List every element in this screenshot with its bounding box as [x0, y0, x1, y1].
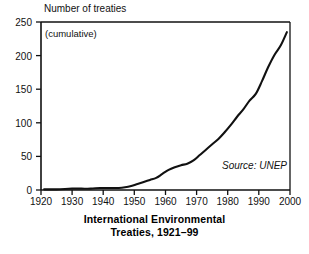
x-tick-label-1990: 1990	[244, 196, 274, 207]
y-tick-label-0: 0	[6, 185, 32, 196]
chart-caption: International Environmental Treaties, 19…	[0, 213, 309, 239]
y-tick-label-50: 50	[6, 151, 32, 162]
x-tick-label-1970: 1970	[182, 196, 212, 207]
source-note: Source: UNEP	[222, 160, 287, 171]
y-tick-label-250: 250	[6, 17, 32, 28]
x-tick-label-2000: 2000	[275, 196, 305, 207]
cumulative-note: (cumulative)	[45, 28, 97, 39]
x-tick-label-1930: 1930	[57, 196, 87, 207]
caption-line-2: Treaties, 1921–99	[0, 226, 309, 239]
y-tick-label-150: 150	[6, 84, 32, 95]
x-tick-label-1950: 1950	[119, 196, 149, 207]
caption-line-1: International Environmental	[0, 213, 309, 226]
y-tick-label-200: 200	[6, 51, 32, 62]
x-tick-label-1940: 1940	[88, 196, 118, 207]
chart-figure: Number of treaties (cumulative) Source: …	[0, 0, 309, 254]
x-tick-label-1920: 1920	[26, 196, 56, 207]
x-tick-label-1980: 1980	[213, 196, 243, 207]
x-tick-label-1960: 1960	[151, 196, 181, 207]
y-axis-title: Number of treaties	[44, 3, 126, 15]
y-tick-label-100: 100	[6, 118, 32, 129]
